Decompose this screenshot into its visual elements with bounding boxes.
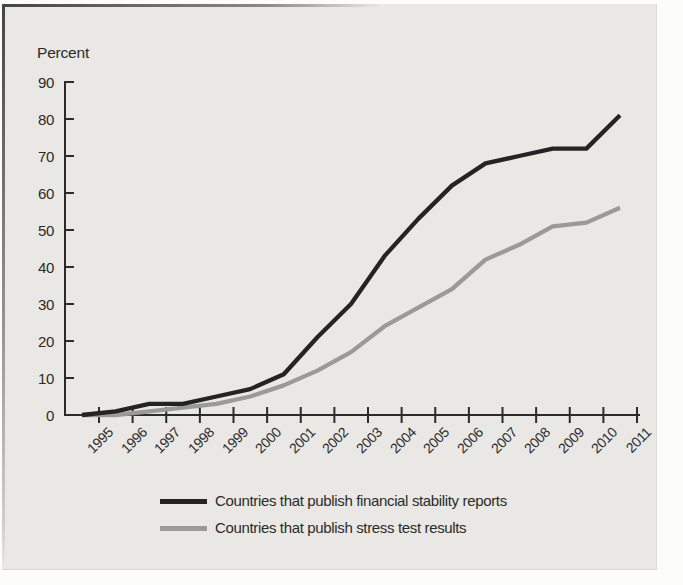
y-tick-label: 0 (16, 407, 54, 424)
y-tick-label: 40 (16, 259, 54, 276)
legend-label-financial-stability-reports: Countries that publish financial stabili… (215, 492, 507, 510)
chart-panel (2, 4, 657, 570)
legend-label-stress-test-results: Countries that publish stress test resul… (215, 519, 466, 537)
legend-swatch-financial-stability-reports (160, 499, 207, 504)
scan-edge-top (2, 4, 381, 7)
legend-item-financial-stability-reports: Countries that publish financial stabili… (160, 492, 507, 510)
y-tick-label: 10 (16, 370, 54, 387)
y-tick-label: 50 (16, 222, 54, 239)
y-tick-label: 80 (16, 111, 54, 128)
scanned-figure: Percent 9080706050403020100 199519961997… (0, 0, 683, 585)
y-tick-label: 60 (16, 185, 54, 202)
y-tick-label: 30 (16, 296, 54, 313)
y-axis-unit-label: Percent (37, 44, 89, 62)
scan-edge-left (2, 4, 5, 569)
y-tick-label: 20 (16, 333, 54, 350)
legend-item-stress-test-results: Countries that publish stress test resul… (160, 519, 466, 537)
y-tick-label: 70 (16, 148, 54, 165)
legend-swatch-stress-test-results (160, 526, 207, 531)
y-tick-label: 90 (16, 74, 54, 91)
